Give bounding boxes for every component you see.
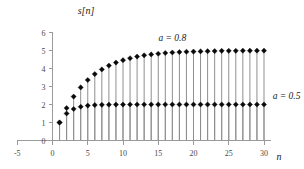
x-tick-label: 25 xyxy=(225,149,233,158)
data-point-marker xyxy=(106,102,111,107)
data-point-marker xyxy=(247,48,252,53)
data-point-marker xyxy=(64,106,69,111)
y-tick-label: 6 xyxy=(42,29,46,38)
data-point-marker xyxy=(212,102,217,107)
data-point-marker xyxy=(113,102,118,107)
data-point-marker xyxy=(177,50,182,55)
y-tick-label: 2 xyxy=(42,101,46,110)
data-point-marker xyxy=(64,111,69,116)
data-point-marker xyxy=(219,48,224,53)
data-point-marker xyxy=(163,102,168,107)
data-point-marker xyxy=(142,53,147,58)
y-tick-label: 5 xyxy=(42,47,46,56)
x-tick-label: 20 xyxy=(190,149,198,158)
stem-lines-group xyxy=(60,51,264,141)
x-axis-title: n xyxy=(277,151,282,162)
data-point-marker xyxy=(261,48,266,53)
y-axis-title: s[n] xyxy=(78,5,95,16)
data-point-marker xyxy=(261,102,266,107)
data-point-marker xyxy=(156,51,161,56)
data-point-marker xyxy=(247,102,252,107)
data-point-marker xyxy=(149,52,154,57)
series-annotation-a08: a = 0.8 xyxy=(158,33,186,43)
x-tick-label: 5 xyxy=(86,149,90,158)
data-point-marker xyxy=(254,48,259,53)
data-point-marker xyxy=(212,48,217,53)
x-tick-label: -5 xyxy=(14,149,21,158)
data-point-marker xyxy=(184,102,189,107)
y-tick-label: 4 xyxy=(42,65,46,74)
data-point-marker xyxy=(191,102,196,107)
y-tick-label: 1 xyxy=(42,119,46,128)
data-point-marker xyxy=(198,49,203,54)
x-tick-label: 15 xyxy=(154,149,162,158)
x-tick-label: 0 xyxy=(51,149,55,158)
data-point-marker xyxy=(254,102,259,107)
data-point-marker xyxy=(85,103,90,108)
data-point-marker xyxy=(191,49,196,54)
x-tick-label: 30 xyxy=(260,149,268,158)
data-point-marker xyxy=(205,49,210,54)
data-point-marker xyxy=(233,102,238,107)
data-point-marker xyxy=(184,49,189,54)
data-point-marker xyxy=(57,120,62,125)
data-point-marker xyxy=(135,102,140,107)
data-point-marker xyxy=(78,85,83,90)
data-point-marker xyxy=(226,48,231,53)
data-point-marker xyxy=(219,102,224,107)
data-point-marker xyxy=(113,60,118,65)
data-point-marker xyxy=(120,58,125,63)
data-point-marker xyxy=(106,63,111,68)
data-markers-group xyxy=(57,48,267,125)
data-point-marker xyxy=(85,77,90,82)
y-tick-label: 3 xyxy=(42,83,46,92)
data-point-marker xyxy=(226,102,231,107)
data-point-marker xyxy=(92,102,97,107)
data-point-marker xyxy=(99,67,104,72)
data-point-marker xyxy=(233,48,238,53)
data-point-marker xyxy=(149,102,154,107)
data-point-marker xyxy=(99,102,104,107)
chart-canvas: -50510152025300123456 s[n] n a = 0.8 a =… xyxy=(0,0,304,169)
data-point-marker xyxy=(177,102,182,107)
x-tick-label: 10 xyxy=(119,149,127,158)
data-point-marker xyxy=(163,50,168,55)
data-point-marker xyxy=(127,56,132,61)
data-point-marker xyxy=(240,102,245,107)
stem-plot-figure: -50510152025300123456 s[n] n a = 0.8 a =… xyxy=(0,0,304,169)
data-point-marker xyxy=(120,102,125,107)
data-point-marker xyxy=(142,102,147,107)
data-point-marker xyxy=(92,71,97,76)
data-point-marker xyxy=(205,102,210,107)
data-point-marker xyxy=(170,50,175,55)
series-annotation-a05: a = 0.5 xyxy=(273,91,301,101)
data-point-marker xyxy=(127,102,132,107)
data-point-marker xyxy=(71,106,76,111)
y-tick-label: 0 xyxy=(42,137,46,146)
data-point-marker xyxy=(198,102,203,107)
data-point-marker xyxy=(78,104,83,109)
data-point-marker xyxy=(135,54,140,59)
data-point-marker xyxy=(170,102,175,107)
data-point-marker xyxy=(71,94,76,99)
data-point-marker xyxy=(240,48,245,53)
data-point-marker xyxy=(156,102,161,107)
